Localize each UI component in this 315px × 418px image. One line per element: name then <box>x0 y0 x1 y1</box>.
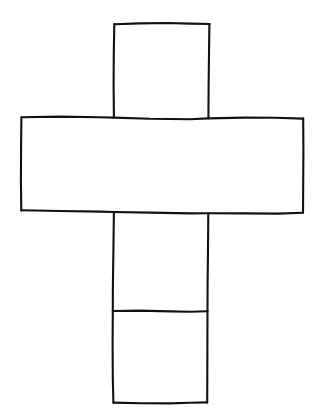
back-face <box>113 311 207 403</box>
top-square-right-edge <box>208 24 209 118</box>
lower-column-left-edge <box>113 212 114 403</box>
top-square-left-edge <box>114 24 115 118</box>
top-face <box>113 23 209 118</box>
bottom-edge <box>113 402 207 403</box>
bottom-face <box>113 212 208 311</box>
interior-divider-edge <box>113 311 208 312</box>
cube-net-figure <box>0 0 315 418</box>
left-face <box>21 117 113 212</box>
top-square-top-edge <box>115 23 210 24</box>
band-left-edge <box>21 117 22 210</box>
drawing-canvas <box>0 0 315 418</box>
lower-column-right-edge <box>207 213 208 402</box>
front-face <box>113 118 208 212</box>
right-face <box>208 118 303 212</box>
